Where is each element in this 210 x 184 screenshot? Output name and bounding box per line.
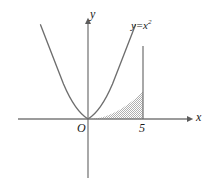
parabola-plot-canvas [0,0,210,184]
shaded-area-under-curve [88,91,143,119]
y-axis-label: y [90,8,95,20]
x-tick-label-5: 5 [139,122,145,134]
origin-label: O [77,122,86,134]
curve-equation-label: y=x2 [131,20,152,31]
math-figure: y x O 5 y=x2 [0,0,210,184]
x-axis-label: x [196,111,201,123]
curve-equation-exponent: 2 [148,18,152,26]
